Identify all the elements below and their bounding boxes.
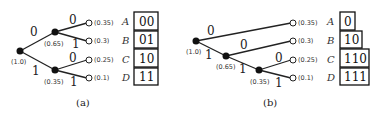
code-value: 01 [139,33,154,47]
node-prob: (0.65) [44,40,64,48]
internal-node-a-lower [52,67,59,74]
edge-label: 0 [275,51,283,65]
symbol-label: C [122,54,130,65]
caption-a: (a) [76,97,90,108]
leaf-prob: (0.35) [94,19,114,27]
symbol-label: B [326,35,334,46]
leaf-nodes-a [86,20,92,81]
internal-node-b-2 [256,67,263,74]
leaf-prob: (0.25) [94,56,114,64]
symbol-label: A [121,16,129,27]
edge-label: 0 [69,13,77,27]
leaf-prob: (0.1) [94,74,109,82]
edge-label: 1 [275,76,283,90]
leaf-prob: (0.3) [298,37,313,45]
edge-label: 1 [32,64,40,78]
edge-label: 1 [72,37,80,51]
leaf-prob: (0.35) [298,19,318,27]
node-prob: (0.65) [216,63,236,71]
edge-label: 1 [205,48,213,62]
huffman-tree-figure: 0 1 0 1 0 1 (1.0) (0.65) (0.35) (0.35) (… [0,0,380,121]
leaf-prob: (0.25) [298,56,318,64]
symbol-label: B [121,35,129,46]
edge-label: 0 [240,38,248,52]
leaf-prob: (0.3) [94,37,109,45]
node-prob: (1.0) [186,48,201,56]
code-value: 00 [139,15,154,29]
root-node-b [193,38,200,45]
tree-b: 0 1 0 1 0 1 (1.0) (0.65) (0.35) (0.35) (… [186,12,369,108]
code-value: 11 [139,70,154,84]
edge-label: 0 [69,51,77,65]
code-value: 10 [344,33,359,47]
node-prob: (0.35) [250,78,270,86]
edge-label: 0 [207,24,215,38]
code-value: 111 [344,70,367,84]
internal-node-a-upper [52,29,59,36]
edge-label: 1 [70,75,78,89]
edge-label: 0 [30,25,38,39]
code-value: 110 [344,52,367,66]
node-prob: (1.0) [11,58,26,66]
internal-node-b-1 [223,53,230,60]
root-node-a [17,48,24,55]
symbol-label: D [121,72,130,83]
tree-a: 0 1 0 1 0 1 (1.0) (0.65) (0.35) (0.35) (… [11,12,158,108]
caption-b: (b) [263,97,277,108]
symbol-label: D [326,72,335,83]
node-prob: (0.35) [44,78,64,86]
edge-label: 1 [239,62,247,76]
symbol-label: A [326,16,334,27]
symbol-label: C [327,54,335,65]
code-value: 0 [344,15,352,29]
leaf-nodes-b [290,20,296,81]
diagram-svg: 0 1 0 1 0 1 (1.0) (0.65) (0.35) (0.35) (… [0,0,380,121]
leaf-prob: (0.1) [298,74,313,82]
code-value: 10 [139,52,154,66]
